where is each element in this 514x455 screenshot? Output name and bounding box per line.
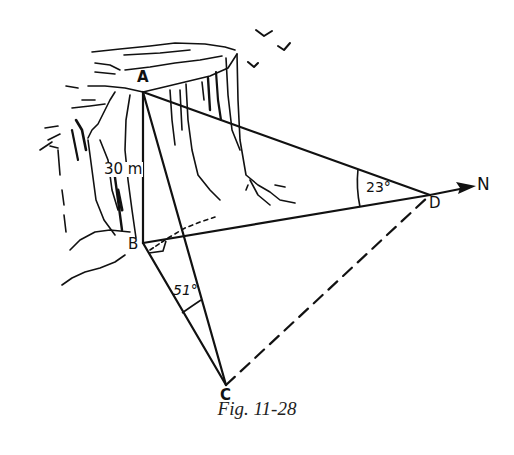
angle-label-C: 51° xyxy=(173,283,198,297)
segment-BC xyxy=(143,243,226,385)
point-label-A: A xyxy=(137,70,149,85)
height-label: 30 m xyxy=(103,162,143,177)
cliff-illustration xyxy=(40,43,295,285)
right-angle-marker xyxy=(149,241,166,253)
north-arrow-icon xyxy=(456,182,476,194)
angle-arc-D xyxy=(357,169,360,207)
angle-arc-C xyxy=(182,300,201,313)
angle-label-D: 23° xyxy=(366,180,391,194)
north-label: N xyxy=(477,176,490,193)
diagram-canvas xyxy=(0,0,514,455)
segment-AC xyxy=(143,92,226,385)
point-label-B: B xyxy=(128,237,138,252)
birds-icon xyxy=(248,30,290,67)
point-label-D: D xyxy=(429,196,441,211)
cliff-triangulation-diagram: A B C D N 30 m 23° 51° Fig. 11-28 xyxy=(0,0,514,455)
geometry-lines xyxy=(143,92,470,385)
figure-caption: Fig. 11-28 xyxy=(0,398,514,420)
